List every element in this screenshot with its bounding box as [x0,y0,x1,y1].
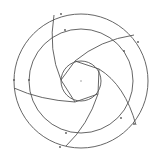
tick-mark [59,146,61,148]
tick-marks [13,13,139,148]
tick-mark [28,79,30,81]
tick-mark [137,41,139,43]
tick-mark [123,50,125,52]
diagram-canvas [0,0,162,157]
tick-mark [133,123,135,125]
geometric-spiral-diagram [0,0,162,157]
tick-mark [120,117,122,119]
tick-mark [13,79,15,81]
spiral-arc-2 [75,35,134,61]
tick-mark [65,132,67,134]
spiral-arc-5 [14,88,75,102]
tick-mark [64,29,66,31]
center-point [80,80,82,82]
tick-mark [60,13,62,15]
spiral-arc-1 [52,15,61,80]
